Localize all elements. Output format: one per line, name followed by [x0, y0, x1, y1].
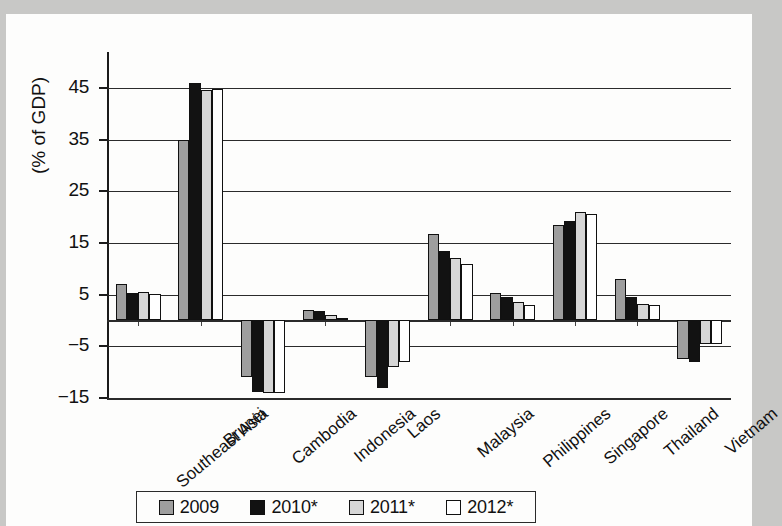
y-tick — [99, 139, 108, 141]
category-label: Vietnam — [722, 404, 782, 459]
bar — [524, 305, 535, 321]
y-tick-label: −15 — [37, 386, 89, 408]
bar-group — [677, 62, 722, 398]
bar — [201, 90, 212, 320]
category-label: Malaysia — [473, 404, 537, 462]
bar — [178, 140, 189, 321]
y-tick-label: 25 — [37, 179, 89, 201]
bar — [649, 305, 660, 321]
bar — [439, 251, 450, 321]
y-tick — [99, 345, 108, 347]
bar — [149, 294, 160, 321]
legend-item: 2012* — [446, 497, 513, 518]
bar — [626, 297, 637, 320]
bar-group — [553, 62, 598, 398]
bar — [428, 234, 439, 321]
bar — [337, 318, 348, 321]
bar — [564, 221, 575, 320]
bar — [325, 315, 336, 320]
bar-group — [428, 62, 473, 398]
bar — [116, 284, 127, 320]
y-tick — [99, 294, 108, 296]
bar-group — [303, 62, 348, 398]
bar-group — [241, 62, 286, 398]
category-label: Singapore — [601, 404, 673, 469]
legend-item: 2011* — [349, 497, 415, 518]
bar — [677, 320, 688, 359]
legend-label: 2009 — [180, 497, 219, 518]
bar — [513, 302, 524, 321]
bar — [127, 293, 138, 320]
bar — [450, 258, 461, 320]
y-tick-label: −5 — [37, 334, 89, 356]
bar — [615, 279, 626, 320]
bar — [461, 264, 472, 321]
bar-group — [365, 62, 410, 398]
category-label: Philippines — [539, 404, 615, 472]
plot-area: 453525155−5−15 Southeast AsiaBruneiCambo… — [107, 62, 731, 398]
bar — [314, 311, 325, 320]
bar — [241, 320, 252, 377]
chart-legend: 20092010*2011*2012* — [136, 491, 536, 523]
category-label: Thailand — [660, 404, 723, 461]
y-tick — [99, 190, 108, 192]
bar — [586, 214, 597, 320]
y-tick — [99, 242, 108, 244]
bar — [212, 89, 223, 321]
legend-label: 2011* — [370, 497, 415, 518]
legend-label: 2010* — [271, 497, 317, 518]
bar — [575, 212, 586, 321]
bar — [700, 320, 711, 343]
bar — [711, 320, 722, 343]
y-tick-label: 15 — [37, 231, 89, 253]
legend-label: 2012* — [467, 497, 513, 518]
x-axis-line — [107, 398, 731, 400]
bar — [388, 320, 399, 367]
bar — [399, 320, 410, 361]
bar — [263, 320, 274, 392]
y-tick-label: 5 — [37, 283, 89, 305]
bar-group — [116, 62, 161, 398]
swatch-2009-gray-icon — [159, 500, 174, 515]
bar — [501, 297, 512, 320]
bar — [377, 320, 388, 387]
bar — [252, 320, 263, 391]
y-tick — [99, 87, 108, 89]
bar — [138, 292, 149, 320]
legend-item: 2009 — [159, 497, 219, 518]
y-tick-label: 45 — [37, 76, 89, 98]
bar — [689, 320, 700, 361]
category-label: Cambodia — [289, 404, 361, 469]
bar-group — [178, 62, 223, 398]
bar-group — [490, 62, 535, 398]
bar — [365, 320, 376, 377]
swatch-2011-lightgray-icon — [349, 500, 364, 515]
legend-item: 2010* — [250, 497, 317, 518]
y-tick-label: 35 — [37, 128, 89, 150]
bar — [303, 310, 314, 320]
bar — [553, 225, 564, 321]
zero-line — [107, 320, 731, 322]
bar-group — [615, 62, 660, 398]
bar — [274, 320, 285, 392]
swatch-2010-black-icon — [250, 500, 265, 515]
bar — [189, 83, 200, 321]
bar — [637, 304, 648, 321]
chart-paper: (% of GDP) 453525155−5−15 Southeast Asia… — [6, 14, 752, 526]
swatch-2012-white-icon — [446, 500, 461, 515]
bar — [490, 293, 501, 321]
